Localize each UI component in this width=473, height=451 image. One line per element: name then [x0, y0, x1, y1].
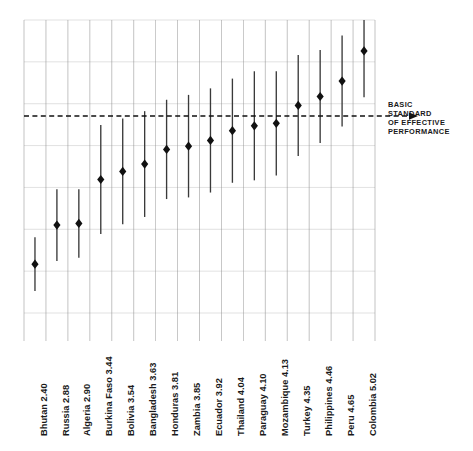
x-tick-label: Zambia 3.85: [192, 383, 202, 436]
x-tick-label: Bangladesh 3.63: [148, 363, 158, 436]
x-tick-label: Turkey 4.35: [302, 386, 312, 436]
data-point-marker: [75, 219, 82, 228]
data-point-marker: [207, 136, 214, 145]
reference-line-annotation: BASICSTANDARDOF EFFECTIVEPERFORMANCE: [388, 100, 450, 136]
annotation-line-0: BASIC: [388, 100, 450, 109]
data-point-marker: [339, 76, 346, 85]
x-tick-label: Peru 4.65: [346, 395, 356, 436]
annotation-line-2: OF EFFECTIVE: [388, 118, 450, 127]
x-tick-label: Bhutan 2.40: [39, 383, 49, 436]
data-point-marker: [163, 145, 170, 154]
data-point-marker: [53, 221, 60, 230]
data-point-marker: [273, 119, 280, 128]
vertical-separators: [24, 20, 375, 341]
x-tick-label: Burkina Faso 3.44: [104, 356, 114, 436]
data-point-marker: [229, 126, 236, 135]
x-tick-label: Russia 2.88: [61, 385, 71, 436]
x-tick-label: Algeria 2.90: [82, 384, 92, 436]
data-point-marker: [97, 175, 104, 184]
x-tick-label: Colombia 5.02: [368, 373, 378, 436]
x-tick-label: Mozambique 4.13: [280, 359, 290, 436]
x-tick-label: Thailand 4.04: [236, 377, 246, 436]
data-point-marker: [295, 101, 302, 110]
data-point-marker: [317, 92, 324, 101]
x-tick-label: Philippines 4.46: [324, 366, 334, 436]
data-point-marker: [185, 142, 192, 151]
x-tick-label: Bolivia 3.54: [126, 385, 136, 436]
x-tick-label: Ecuador 3.92: [214, 378, 224, 436]
data-point-marker: [360, 46, 367, 55]
chart-container: BASICSTANDARDOF EFFECTIVEPERFORMANCE Bhu…: [0, 0, 473, 451]
data-point-marker: [31, 260, 38, 269]
annotation-line-3: PERFORMANCE: [388, 127, 450, 136]
data-point-marker: [119, 167, 126, 176]
data-point-marker: [141, 159, 148, 168]
annotation-line-1: STANDARD: [388, 109, 450, 118]
x-tick-label: Honduras 3.81: [170, 372, 180, 436]
data-point-marker: [251, 121, 258, 130]
x-tick-label: Paraguay 4.10: [258, 373, 268, 436]
